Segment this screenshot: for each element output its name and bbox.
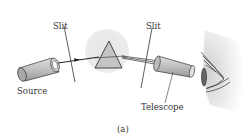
source-cylinder xyxy=(16,57,61,82)
slit-left-line xyxy=(64,26,75,82)
telescope-leader xyxy=(165,72,173,103)
spectroscope-diagram: Slit Slit Source Telescope (a) xyxy=(0,0,249,138)
slit-right-label: Slit xyxy=(146,21,161,31)
diagram-graphics xyxy=(0,0,249,138)
figure-caption: (a) xyxy=(117,124,129,134)
telescope-label: Telescope xyxy=(141,102,184,112)
slit-left-label: Slit xyxy=(53,21,68,31)
face-shading xyxy=(203,30,249,115)
slit-right-line xyxy=(141,28,152,88)
source-label: Source xyxy=(17,86,47,96)
telescope xyxy=(153,56,196,78)
